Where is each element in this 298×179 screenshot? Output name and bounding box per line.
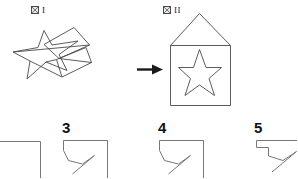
option-4-number[interactable]: 4: [158, 120, 166, 135]
options-row: [0, 0, 297, 178]
option-5-shape[interactable]: [257, 141, 298, 173]
option-5-number[interactable]: 5: [254, 120, 262, 135]
option-3-number[interactable]: 3: [62, 120, 70, 135]
figure-puzzle-canvas: I II: [0, 0, 297, 178]
option-4-shape[interactable]: [160, 141, 204, 179]
option-cropped-left[interactable]: [0, 142, 41, 179]
option-3-shape[interactable]: [64, 141, 108, 179]
